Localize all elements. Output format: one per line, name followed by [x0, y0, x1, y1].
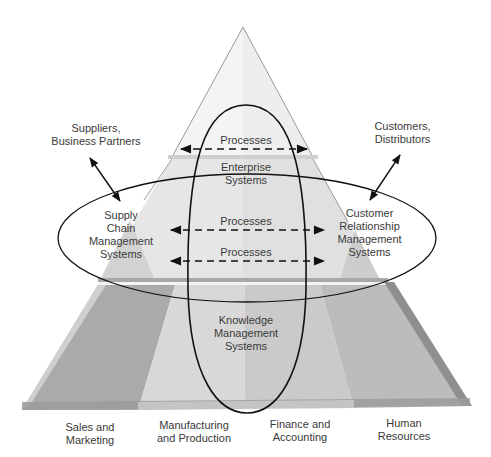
process-label-top: Processes	[206, 134, 286, 147]
area-manufacturing-production: Manufacturing and Production	[143, 419, 245, 445]
process-label-bottom: Processes	[206, 246, 286, 259]
crm-label: Customer Relationship Management Systems	[322, 207, 417, 259]
enterprise-systems-label: Enterprise Systems	[196, 161, 296, 187]
pyramid-diagram	[0, 0, 491, 457]
area-finance-accounting: Finance and Accounting	[256, 418, 344, 444]
knowledge-management-label: Knowledge Management Systems	[196, 314, 296, 353]
area-sales-marketing: Sales and Marketing	[50, 421, 130, 447]
suppliers-label: Suppliers, Business Partners	[36, 122, 156, 148]
suppliers-arrow	[90, 158, 120, 201]
process-label-middle: Processes	[206, 215, 286, 228]
supply-chain-label: Supply Chain Management Systems	[76, 209, 166, 261]
area-human-resources: Human Resources	[364, 417, 444, 443]
customers-label: Customers, Distributors	[355, 120, 450, 146]
customers-arrow	[370, 155, 400, 200]
